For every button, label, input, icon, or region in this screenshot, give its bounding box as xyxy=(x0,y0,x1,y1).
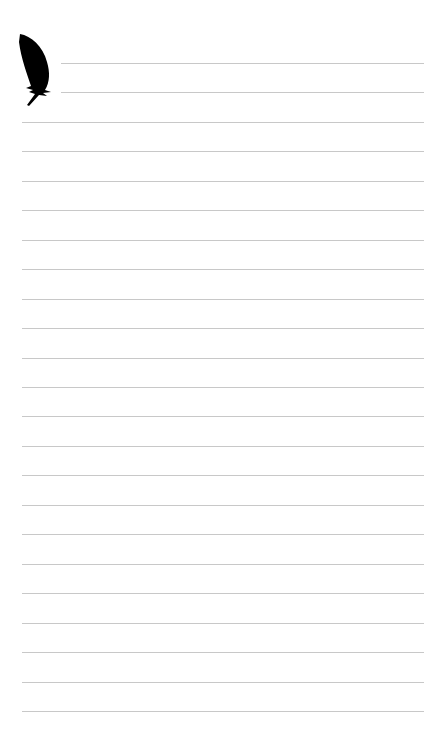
ruled-line xyxy=(22,505,424,506)
ruled-line xyxy=(22,358,424,359)
ruled-line xyxy=(22,652,424,653)
ruled-line xyxy=(22,446,424,447)
ruled-line xyxy=(22,328,424,329)
ruled-line xyxy=(61,63,424,64)
ruled-line xyxy=(22,387,424,388)
ruled-line xyxy=(22,593,424,594)
ruled-line xyxy=(22,623,424,624)
ruled-line xyxy=(22,682,424,683)
ruled-line xyxy=(22,122,424,123)
ruled-line xyxy=(22,299,424,300)
feather-icon xyxy=(17,32,55,108)
ruled-line xyxy=(61,92,424,93)
ruled-line xyxy=(22,416,424,417)
ruled-line xyxy=(22,240,424,241)
ruled-line xyxy=(22,210,424,211)
ruled-line xyxy=(22,711,424,712)
ruled-line xyxy=(22,534,424,535)
ruled-line xyxy=(22,564,424,565)
ruled-line xyxy=(22,269,424,270)
ruled-line xyxy=(22,151,424,152)
ruled-line xyxy=(22,475,424,476)
ruled-line xyxy=(22,181,424,182)
